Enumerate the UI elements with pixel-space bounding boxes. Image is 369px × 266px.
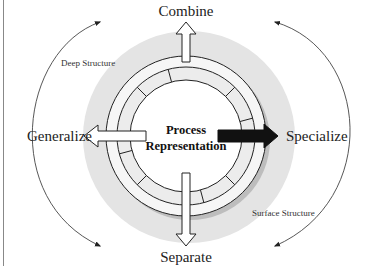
separate-label: Separate — [160, 249, 212, 265]
process-representation-diagram: Combine Separate Generalize Specialize P… — [0, 0, 369, 266]
combine-label: Combine — [159, 3, 214, 19]
center-label-line1: Process — [166, 123, 206, 137]
center-label-line2: Representation — [145, 139, 226, 153]
deep-structure-label: Deep Structure — [61, 58, 115, 68]
specialize-label: Specialize — [286, 128, 348, 144]
generalize-label: Generalize — [27, 128, 92, 144]
surface-structure-label: Surface Structure — [252, 208, 315, 218]
